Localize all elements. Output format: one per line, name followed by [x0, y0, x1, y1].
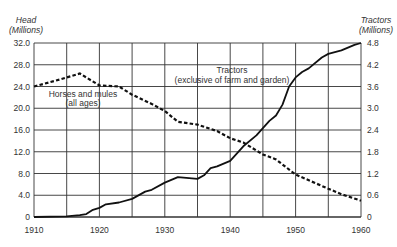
x-axis-tick-label: 1950 — [286, 225, 305, 235]
left-axis-ticks: 04.08.012.016.020.024.028.032.0 — [13, 38, 30, 222]
left-axis-tick-label: 24.0 — [13, 82, 30, 92]
tractors-annotation-line2: (exclusive of farm and garden) — [175, 75, 290, 85]
x-axis-tick-label: 1930 — [155, 225, 174, 235]
left-axis-tick-label: 20.0 — [13, 103, 30, 113]
tractors-annotation-line1: Tractors — [217, 65, 248, 75]
x-axis-tick-label: 1920 — [90, 225, 109, 235]
x-axis-tick-label: 1940 — [221, 225, 240, 235]
x-axis-tick-label: 1960 — [352, 225, 371, 235]
horses-annotation-line2: (all ages) — [66, 98, 101, 108]
right-axis-tick-label: 1.2 — [367, 169, 379, 179]
left-axis-tick-label: 8.0 — [18, 169, 30, 179]
right-axis-tick-label: 0.6 — [367, 190, 379, 200]
left-axis-tick-label: 4.0 — [18, 190, 30, 200]
line-chart: Head (Millions) Tractors (Millions) 04.0… — [0, 0, 397, 247]
left-axis-tick-label: 16.0 — [13, 125, 30, 135]
right-axis-tick-label: 3.0 — [367, 103, 379, 113]
right-axis-tick-label: 1.8 — [367, 147, 379, 157]
left-axis-tick-label: 32.0 — [13, 38, 30, 48]
left-axis-title-line2: (Millions) — [9, 25, 43, 35]
right-axis-title-line1: Tractors — [361, 15, 392, 25]
x-axis-tick-label: 1910 — [25, 225, 44, 235]
left-axis-tick-label: 12.0 — [13, 147, 30, 157]
right-axis-tick-label: 3.6 — [367, 82, 379, 92]
right-axis-ticks: 00.61.21.82.43.03.64.24.8 — [367, 38, 379, 222]
grid — [34, 43, 361, 217]
x-axis-ticks: 191019201930194019501960 — [25, 225, 371, 235]
right-axis-tick-label: 4.8 — [367, 38, 379, 48]
left-axis-title-line1: Head — [16, 15, 37, 25]
right-axis-tick-label: 2.4 — [367, 125, 379, 135]
left-axis-tick-label: 28.0 — [13, 60, 30, 70]
right-axis-title-line2: (Millions) — [359, 25, 393, 35]
right-axis-tick-label: 4.2 — [367, 60, 379, 70]
right-axis-tick-label: 0 — [367, 212, 372, 222]
left-axis-tick-label: 0 — [25, 212, 30, 222]
